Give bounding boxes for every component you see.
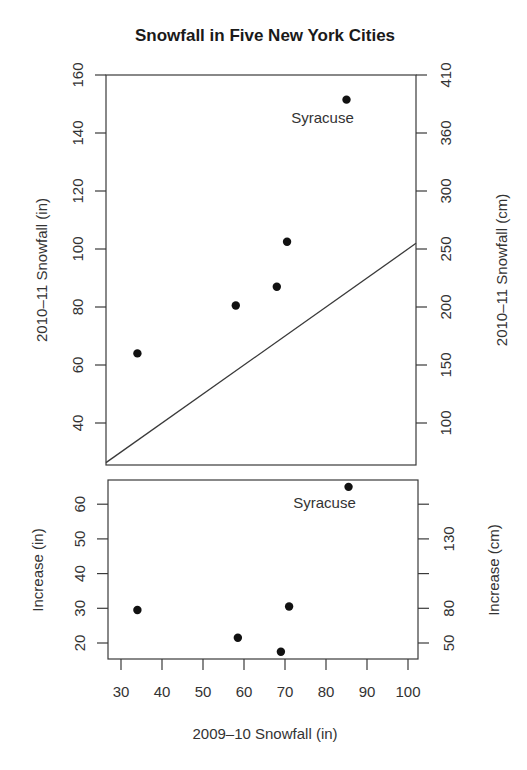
y-tick-label: 60 [69, 357, 86, 374]
data-point [133, 606, 141, 614]
x-tick-label: 70 [277, 683, 294, 700]
y-tick-label: 100 [69, 236, 86, 261]
y-tick-label: 160 [69, 62, 86, 87]
data-point [277, 647, 285, 655]
y-right-tick-label: 300 [437, 178, 454, 203]
y-right-tick-label: 200 [437, 294, 454, 319]
top-plot-frame [106, 75, 416, 465]
y-tick-label: 80 [69, 299, 86, 316]
data-point [133, 349, 141, 357]
y-right-tick-label: 50 [440, 635, 457, 652]
data-point [273, 283, 281, 291]
x-tick-label: 40 [154, 683, 171, 700]
syracuse-label-bottom: Syracuse [293, 494, 356, 511]
data-point [283, 238, 291, 246]
y-tick-label: 40 [71, 565, 88, 582]
x-axis-label: 2009–10 Snowfall (in) [192, 725, 337, 742]
x-tick-label: 50 [195, 683, 212, 700]
y-right-tick-label: 410 [437, 62, 454, 87]
x-tick-label: 90 [359, 683, 376, 700]
y-right-tick-label: 150 [437, 352, 454, 377]
y-tick-label: 50 [71, 531, 88, 548]
y-right-tick-label: 130 [440, 526, 457, 551]
y-tick-label: 30 [71, 600, 88, 617]
reference-line-y-equals-x [106, 243, 416, 462]
x-tick-label: 80 [318, 683, 335, 700]
bottom-left-y-axis: 2030405060 [71, 496, 108, 651]
top-right-y-axis: 100150200250300360410 [416, 62, 454, 435]
data-point [234, 634, 242, 642]
data-point [344, 483, 352, 491]
bottom-y-axis-label-left: Increase (in) [29, 528, 46, 611]
y-right-tick-label: 80 [440, 600, 457, 617]
syracuse-label-top: Syracuse [291, 109, 354, 126]
bottom-y-axis-label-right: Increase (cm) [485, 524, 502, 616]
top-data-points [133, 95, 350, 357]
data-point [232, 301, 240, 309]
x-tick-label: 30 [113, 683, 130, 700]
y-tick-label: 120 [69, 178, 86, 203]
y-right-tick-label: 360 [437, 120, 454, 145]
top-y-axis-label-left: 2010–11 Snowfall (in) [33, 198, 50, 342]
x-tick-label: 100 [395, 683, 420, 700]
chart-title: Snowfall in Five New York Cities [135, 26, 395, 45]
x-axis: 30405060708090100 [113, 659, 421, 700]
bottom-right-y-axis: 5080130 [418, 504, 457, 651]
data-point [342, 95, 350, 103]
y-right-tick-label: 100 [437, 410, 454, 435]
top-panel: 406080100120140160 100150200250300360410… [33, 62, 510, 465]
y-tick-label: 40 [69, 415, 86, 432]
y-tick-label: 20 [71, 635, 88, 652]
x-tick-label: 60 [236, 683, 253, 700]
y-right-tick-label: 250 [437, 236, 454, 261]
y-tick-label: 60 [71, 496, 88, 513]
top-left-y-axis: 406080100120140160 [69, 62, 106, 431]
snowfall-chart: Snowfall in Five New York Cities 4060801… [0, 0, 527, 770]
bottom-plot-frame [108, 480, 418, 659]
data-point [285, 602, 293, 610]
bottom-panel: 2030405060 5080130 30405060708090100 Syr… [29, 480, 502, 700]
y-tick-label: 140 [69, 120, 86, 145]
top-y-axis-label-right: 2010–11 Snowfall (cm) [493, 194, 510, 346]
